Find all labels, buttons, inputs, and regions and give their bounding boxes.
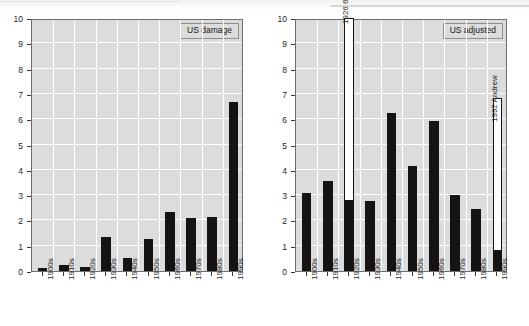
x-axis-tick	[390, 272, 391, 276]
gridline-vertical	[117, 20, 118, 271]
gridline-vertical	[444, 20, 445, 271]
y-axis-tick-label: 8	[7, 65, 23, 75]
bar-1990s	[229, 102, 239, 271]
x-axis-tick	[84, 272, 85, 276]
cyclone-damage-figure: US cyclone damage, billion 2000 US$ per …	[0, 0, 529, 326]
gridline-horizontal	[296, 118, 506, 119]
y-axis-tick-label: 4	[7, 166, 23, 176]
gridline-horizontal	[32, 42, 242, 43]
gridline-vertical	[381, 20, 382, 271]
gridline-horizontal	[296, 169, 506, 170]
x-axis-tick-label-1950s: 1950s	[416, 258, 425, 280]
x-axis-tick	[369, 272, 370, 276]
x-axis-tick	[126, 272, 127, 276]
gridline-vertical	[53, 20, 54, 271]
plot-area-us-damage: US damage	[31, 19, 243, 272]
gridline-horizontal	[296, 144, 506, 145]
x-axis-tick	[454, 272, 455, 276]
x-axis-tick	[63, 272, 64, 276]
y-axis-tick-label: 1	[7, 242, 23, 252]
x-axis-tick-label-1920s: 1920s	[352, 258, 361, 280]
x-axis-tick	[327, 272, 328, 276]
gridline-horizontal	[32, 118, 242, 119]
legend-us-adjusted: US adjusted	[443, 23, 503, 39]
x-axis-tick-label-1970s: 1970s	[458, 258, 467, 280]
y-axis-tick	[27, 247, 31, 248]
gridline-horizontal	[32, 93, 242, 94]
y-axis-tick	[27, 196, 31, 197]
x-axis-tick-label-1980s: 1980s	[479, 258, 488, 280]
x-axis-tick	[496, 272, 497, 276]
y-axis-tick-label: 6	[7, 115, 23, 125]
y-axis-tick	[27, 95, 31, 96]
gridline-vertical	[223, 20, 224, 271]
y-axis-tick-label: 2	[271, 216, 287, 226]
y-axis-tick-label: 10	[7, 14, 23, 24]
x-axis-tick	[169, 272, 170, 276]
x-axis-tick-label-1970s: 1970s	[194, 258, 203, 280]
y-axis-tick	[291, 272, 295, 273]
annotation-1990s: 1992 Andrew	[490, 75, 499, 122]
y-axis-tick	[291, 120, 295, 121]
y-axis-tick	[291, 196, 295, 197]
x-axis-tick-label-1930s: 1930s	[373, 258, 382, 280]
y-axis-tick	[27, 70, 31, 71]
y-axis-tick-label: 9	[271, 39, 287, 49]
gridline-vertical	[487, 20, 488, 271]
y-axis-tick-label: 4	[271, 166, 287, 176]
gridline-vertical	[317, 20, 318, 271]
x-axis-tick	[433, 272, 434, 276]
bar-1940s	[387, 113, 397, 271]
x-axis-tick-label-1900s: 1900s	[46, 258, 55, 280]
y-axis-tick	[27, 146, 31, 147]
x-axis-tick-label-1960s: 1960s	[437, 258, 446, 280]
gridline-vertical	[338, 20, 339, 271]
y-axis-tick-label: 5	[7, 141, 23, 151]
x-axis-tick	[105, 272, 106, 276]
y-axis-tick	[27, 272, 31, 273]
gridline-vertical	[180, 20, 181, 271]
y-axis-tick	[291, 221, 295, 222]
gridline-vertical	[159, 20, 160, 271]
gridline-horizontal	[296, 68, 506, 69]
x-axis-tick-label-1980s: 1980s	[215, 258, 224, 280]
x-axis-tick	[348, 272, 349, 276]
y-axis-tick-label: 7	[7, 90, 23, 100]
x-axis-tick-label-1950s: 1950s	[152, 258, 161, 280]
x-axis-tick	[475, 272, 476, 276]
x-axis-tick-label-1940s: 1940s	[130, 258, 139, 280]
gridline-horizontal	[32, 169, 242, 170]
x-axis-tick-label-1900s: 1900s	[310, 258, 319, 280]
gridline-vertical	[96, 20, 97, 271]
gridline-horizontal	[296, 93, 506, 94]
x-axis-tick-label-1920s: 1920s	[88, 258, 97, 280]
x-axis-tick	[412, 272, 413, 276]
x-axis-tick-label-1960s: 1960s	[173, 258, 182, 280]
y-axis-tick-label: 1	[271, 242, 287, 252]
y-axis-tick-label: 7	[271, 90, 287, 100]
gridline-vertical	[466, 20, 467, 271]
x-axis-tick	[306, 272, 307, 276]
x-axis-tick	[232, 272, 233, 276]
y-axis-tick	[27, 19, 31, 20]
legend-us-damage: US damage	[180, 23, 239, 39]
panel-us-damage: US cyclone damage, billion 2000 US$ per …	[0, 0, 265, 326]
gridline-horizontal	[32, 68, 242, 69]
gridline-horizontal	[296, 42, 506, 43]
y-axis-tick	[291, 146, 295, 147]
panel-us-adjusted: US adjusted 1926 6 (Dade & Broward)1992 …	[264, 0, 529, 326]
y-axis-tick-label: 3	[271, 191, 287, 201]
x-axis-tick	[148, 272, 149, 276]
x-axis-tick	[211, 272, 212, 276]
y-axis-tick	[27, 221, 31, 222]
x-axis-tick-label-1910s: 1910s	[67, 258, 76, 280]
gridline-vertical	[360, 20, 361, 271]
y-axis-tick	[27, 44, 31, 45]
y-axis-tick	[291, 19, 295, 20]
gridline-vertical	[202, 20, 203, 271]
bar-1960s	[429, 121, 439, 271]
x-axis-tick-label-1930s: 1930s	[109, 258, 118, 280]
y-axis-tick	[27, 171, 31, 172]
x-axis-tick	[190, 272, 191, 276]
y-axis-tick-label: 9	[7, 39, 23, 49]
